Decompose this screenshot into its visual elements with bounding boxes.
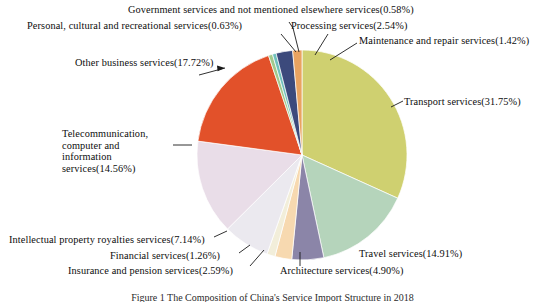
leader-line-personal [281,34,296,52]
slice-label-financial: Financial services(1.26%) [110,250,220,262]
slice-label-processing: Processing services(2.54%) [291,20,408,32]
slice-label-travel: Travel services(14.91%) [359,248,462,260]
slice-label-transport: Transport services(31.75%) [404,96,521,108]
figure-caption: Figure 1 The Composition of China's Serv… [0,292,545,302]
leader-arrow-other-business [217,66,225,72]
slice-label-insurance-pension: Insurance and pension services(2.59%) [68,265,233,277]
leader-line-insurance [250,250,264,266]
slice-label-government: Government services and not mentioned el… [128,4,414,16]
leader-line-maintenance [330,43,357,60]
leader-line-intellectual [214,231,227,237]
slice-label-telecom-line3: services(14.56%) [62,163,170,175]
slice-label-telecom-line1: Telecommunication, [62,128,170,140]
slice-label-architecture: Architecture services(4.90%) [280,265,404,277]
slice-label-other-business: Other business services(17.72%) [75,57,213,69]
slice-label-personal: Personal, cultural and recreational serv… [27,20,242,32]
slice-label-maintenance: Maintenance and repair services(1.42%) [359,35,529,47]
slice-label-telecommunication: Telecommunication, computer and informat… [62,128,170,174]
slice-label-telecom-line2: computer and information [62,140,170,163]
leader-line-financial [239,245,250,253]
pie-chart-figure: Government services and not mentioned el… [0,0,545,302]
slice-label-intellectual-property: Intellectual property royalties services… [9,234,205,246]
pie-slice-group [197,50,407,260]
